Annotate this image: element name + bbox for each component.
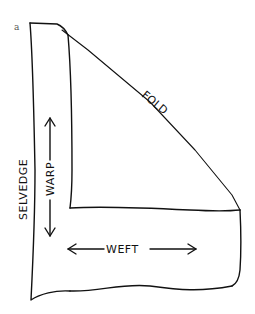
fold-label: FOLD xyxy=(139,88,170,117)
selvedge-label: SELVEDGE xyxy=(17,159,30,220)
inner-horizontal-edge xyxy=(70,207,240,211)
weft-label: WEFT xyxy=(106,243,139,256)
fold-line xyxy=(62,30,240,210)
bottom-edge xyxy=(70,285,232,291)
diagram-drawing: FOLD SELVEDGE WARP WEFT xyxy=(0,0,255,314)
inner-vertical-edge xyxy=(68,35,72,208)
warp-label: WARP xyxy=(44,162,57,196)
right-edge xyxy=(232,210,241,286)
fabric-fold-diagram: a FOLD xyxy=(0,0,255,314)
selvedge-edge xyxy=(30,23,70,300)
panel-label: a xyxy=(14,22,19,32)
top-edge xyxy=(30,23,68,35)
